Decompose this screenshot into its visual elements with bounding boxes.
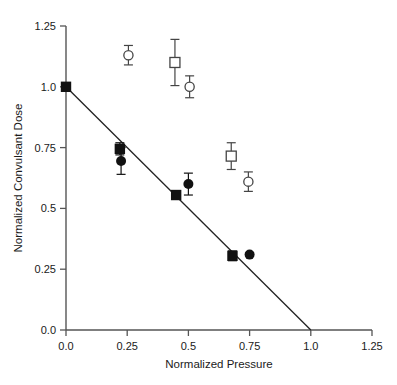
x-tick-label: 1.25 — [361, 340, 382, 352]
marker-filled-circle — [183, 179, 193, 189]
y-tick-label: 1.0 — [41, 81, 56, 93]
data-point — [227, 251, 237, 261]
x-axis-ticks: 0.00.250.50.751.01.25 — [58, 330, 382, 352]
data-point — [226, 143, 236, 170]
marker-filled-square — [171, 190, 181, 200]
marker-open-square — [170, 57, 180, 67]
reference-line — [66, 87, 311, 330]
plot-canvas: 0.00.250.50.751.01.25 0.00.250.50.751.01… — [0, 0, 397, 385]
axis-lines — [66, 26, 372, 330]
y-axis-ticks: 0.00.250.50.751.01.25 — [35, 20, 66, 336]
x-axis-title: Normalized Pressure — [165, 358, 272, 370]
scatter-plot-figure: 0.00.250.50.751.01.25 0.00.250.50.751.01… — [0, 0, 397, 385]
marker-open-square — [226, 151, 236, 161]
marker-open-circle — [244, 177, 253, 186]
y-tick-label: 0.5 — [41, 202, 56, 214]
y-tick-label: 0.75 — [35, 142, 56, 154]
data-point — [245, 250, 255, 260]
series-open-square — [170, 39, 236, 169]
marker-filled-circle — [245, 250, 255, 260]
x-tick-label: 0.75 — [239, 340, 260, 352]
marker-filled-square — [115, 144, 125, 154]
x-tick-label: 1.0 — [303, 340, 318, 352]
marker-open-circle — [124, 51, 133, 60]
data-point — [115, 143, 125, 155]
data-point — [244, 172, 253, 191]
data-point — [61, 82, 71, 92]
reference-line — [66, 87, 311, 330]
y-tick-label: 0.0 — [41, 324, 56, 336]
x-tick-label: 0.0 — [58, 340, 73, 352]
x-tick-label: 0.25 — [116, 340, 137, 352]
marker-filled-circle — [116, 156, 126, 166]
data-series-group — [61, 39, 255, 261]
series-filled-circle — [116, 148, 255, 260]
data-point — [183, 173, 193, 195]
data-point — [185, 76, 194, 98]
marker-open-circle — [185, 82, 194, 91]
data-point — [124, 45, 133, 64]
x-tick-label: 0.5 — [181, 340, 196, 352]
data-point — [170, 39, 180, 85]
y-tick-label: 0.25 — [35, 263, 56, 275]
data-point — [171, 190, 181, 200]
y-axis-title: Normalized Convulsant Dose — [12, 104, 24, 253]
y-tick-label: 1.25 — [35, 20, 56, 32]
marker-filled-square — [227, 251, 237, 261]
marker-filled-square — [61, 82, 71, 92]
